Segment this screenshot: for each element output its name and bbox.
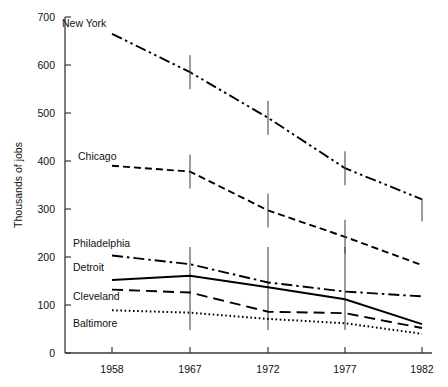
series-label-detroit: Detroit: [73, 261, 104, 273]
x-axis-tick-label: 1982: [410, 363, 434, 375]
series-label-baltimore: Baltimore: [73, 317, 118, 329]
y-axis-tick-label: 600: [37, 59, 55, 71]
series-line-baltimore: [112, 310, 422, 334]
x-axis-tick-label: 1967: [178, 363, 202, 375]
y-axis-tick-label: 700: [37, 11, 55, 23]
series-label-cleveland: Cleveland: [73, 290, 120, 302]
series-label-philadelphia: Philadelphia: [73, 237, 130, 249]
line-chart: 0100200300400500600700195819671972197719…: [0, 0, 448, 387]
series-line-new-york: [112, 34, 422, 200]
y-axis-tick-label: 100: [37, 299, 55, 311]
y-axis-tick-label: 0: [49, 347, 55, 359]
series-line-philadelphia: [112, 256, 422, 297]
y-axis-title: Thousands of jobs: [12, 142, 24, 228]
x-axis-tick-label: 1958: [100, 363, 124, 375]
y-axis-tick-label: 300: [37, 203, 55, 215]
chart-canvas: 0100200300400500600700195819671972197719…: [0, 0, 448, 387]
y-axis-tick-label: 400: [37, 155, 55, 167]
y-axis-tick-label: 500: [37, 107, 55, 119]
series-label-new-york: New York: [62, 17, 107, 29]
y-axis-tick-label: 200: [37, 251, 55, 263]
x-axis-tick-label: 1972: [256, 363, 280, 375]
series-label-chicago: Chicago: [78, 150, 117, 162]
x-axis-tick-label: 1977: [333, 363, 357, 375]
